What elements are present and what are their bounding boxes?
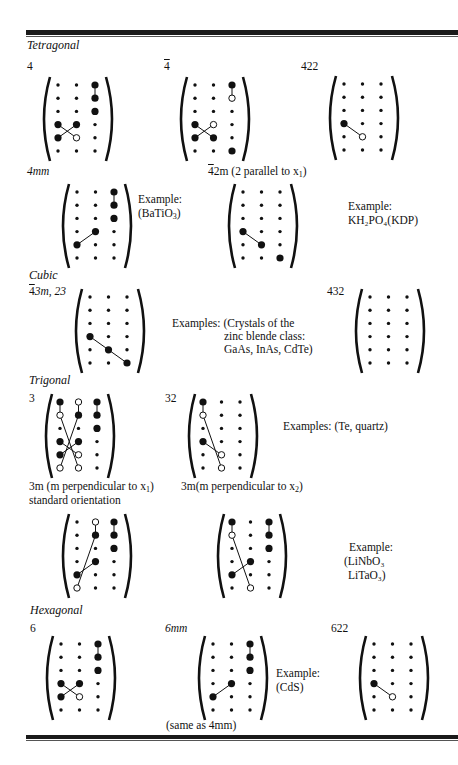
top-rule (26, 30, 458, 35)
zero-dot (368, 348, 371, 351)
zero-dot (75, 230, 78, 233)
class-label-6: 6 (30, 622, 36, 635)
nonzero-dot (56, 438, 63, 445)
zero-dot (278, 243, 281, 246)
zero-dot (278, 190, 281, 193)
zero-dot (75, 560, 78, 563)
nonzero-dot (94, 667, 101, 674)
left-paren (63, 514, 69, 598)
zero-dot (125, 295, 128, 298)
nonzero-dot (123, 359, 130, 366)
zero-dot (95, 466, 98, 469)
zero-dot (342, 148, 345, 151)
bottom-rule (26, 735, 458, 739)
right-paren (109, 636, 115, 720)
nonzero-dot (54, 121, 61, 128)
nonzero-dot (228, 518, 235, 525)
example-litao3: LiTaO₃) (348, 569, 386, 582)
zero-dot (75, 520, 78, 523)
opposite-circle (76, 694, 82, 700)
zero-dot (75, 110, 78, 113)
zero-dot (193, 110, 196, 113)
opposite-circle (75, 399, 81, 405)
zero-dot (112, 586, 115, 589)
zero-dot (107, 309, 110, 312)
zero-dot (238, 427, 241, 430)
class-label-622: 622 (331, 622, 348, 635)
example-linbo3-heading: Example: (349, 541, 393, 554)
zero-dot (391, 682, 394, 685)
example-batio3: (BaTiO3) (138, 207, 181, 220)
zero-dot (405, 361, 408, 364)
zero-dot (211, 642, 214, 645)
class-label-standard-orientation: standard orientation (29, 494, 121, 507)
nonzero-dot (110, 518, 117, 525)
left-paren (181, 77, 187, 161)
matrix-422 (326, 74, 402, 162)
matrix-6 (43, 634, 119, 722)
right-paren (291, 184, 297, 268)
nonzero-dot (105, 346, 112, 353)
left-paren (218, 514, 224, 598)
class-label-32: 32 (165, 392, 177, 405)
nonzero-dot (209, 693, 216, 700)
right-paren (106, 77, 112, 161)
zero-dot (368, 361, 371, 364)
right-paren (125, 514, 131, 598)
nonzero-dot (56, 451, 63, 458)
zero-dot (260, 256, 263, 259)
nonzero-dot (75, 412, 82, 419)
zero-dot (342, 82, 345, 85)
matrix-3m-perp-x2 (214, 512, 290, 600)
matrix-622 (356, 634, 432, 722)
zero-dot (368, 309, 371, 312)
zero-dot (125, 322, 128, 325)
class-label-3m-perp-x1-text: 3m (m perpendicular to x (29, 480, 146, 492)
zero-dot (88, 309, 91, 312)
nonzero-dot (86, 333, 93, 340)
zero-dot (112, 256, 115, 259)
nonzero-dot (228, 81, 235, 88)
zero-dot (391, 656, 394, 659)
zero-dot (379, 122, 382, 125)
zero-dot (379, 109, 382, 112)
nonzero-dot (92, 558, 99, 565)
left-paren (76, 289, 82, 373)
zero-dot (372, 642, 375, 645)
section-heading-cubic: Cubic (29, 269, 58, 282)
zero-dot (387, 309, 390, 312)
class-label-3m-perp-x2-close: ) (299, 480, 303, 492)
left-paren (46, 394, 52, 478)
zero-dot (361, 109, 364, 112)
nonzero-dot (246, 667, 253, 674)
zero-dot (112, 243, 115, 246)
nonzero-dot (110, 545, 117, 552)
zero-dot (405, 295, 408, 298)
section-heading-trigonal: Trigonal (29, 374, 70, 387)
zero-dot (342, 135, 345, 138)
matrix-4bar (177, 75, 253, 163)
class-label-42m-close: ) (303, 165, 307, 177)
zero-dot (260, 230, 263, 233)
class-label-43m-text: 3m, 23 (35, 285, 66, 297)
zero-dot (241, 243, 244, 246)
nonzero-dot (93, 412, 100, 419)
zero-dot (379, 148, 382, 151)
opposite-circle (229, 95, 235, 101)
zero-dot (94, 586, 97, 589)
zero-dot (59, 656, 62, 659)
nonzero-dot (246, 654, 253, 661)
zero-dot (96, 695, 99, 698)
left-paren (199, 636, 205, 720)
left-paren (47, 636, 53, 720)
matrix-3 (42, 392, 118, 480)
zero-dot (391, 669, 394, 672)
zero-dot (379, 82, 382, 85)
right-paren (422, 636, 428, 720)
zero-dot (249, 534, 252, 537)
zero-dot (193, 97, 196, 100)
zero-dot (93, 149, 96, 152)
nonzero-dot (73, 241, 80, 248)
nonzero-dot (199, 438, 206, 445)
opposite-circle (210, 121, 216, 127)
